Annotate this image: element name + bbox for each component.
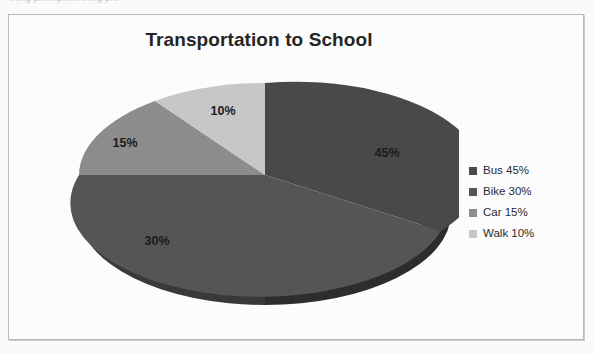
legend-label-bus: Bus 45% bbox=[483, 165, 529, 177]
chart-screenshot: ...ing p... ...p...... ...ing p... Trans… bbox=[0, 0, 594, 353]
legend-swatch-icon bbox=[469, 230, 477, 238]
pie-label-walk: 10% bbox=[210, 104, 235, 118]
pie-label-bike: 30% bbox=[144, 234, 169, 248]
legend-label-bike: Bike 30% bbox=[483, 186, 532, 198]
chart-frame: Transportation to School bbox=[8, 14, 584, 340]
pie-plot-area: 45% 30% 15% 10% bbox=[63, 69, 459, 319]
pie-label-bus: 45% bbox=[374, 146, 399, 160]
legend-item-walk[interactable]: Walk 10% bbox=[469, 223, 565, 244]
legend-swatch-icon bbox=[469, 188, 477, 196]
legend-item-bike[interactable]: Bike 30% bbox=[469, 181, 565, 202]
legend-swatch-icon bbox=[469, 167, 477, 175]
pie-label-car: 15% bbox=[112, 136, 137, 150]
chart-title: Transportation to School bbox=[9, 29, 583, 51]
legend-label-walk: Walk 10% bbox=[483, 228, 534, 240]
legend-item-bus[interactable]: Bus 45% bbox=[469, 160, 565, 181]
legend-label-car: Car 15% bbox=[483, 207, 528, 219]
pie-chart-svg: 45% 30% 15% 10% bbox=[63, 69, 459, 319]
clipped-page-header-text: ...ing p... ...p...... ...ing p... bbox=[0, 0, 594, 7]
legend-item-car[interactable]: Car 15% bbox=[469, 202, 565, 223]
chart-legend: Bus 45% Bike 30% Car 15% Walk 10% bbox=[469, 160, 565, 244]
legend-swatch-icon bbox=[469, 209, 477, 217]
